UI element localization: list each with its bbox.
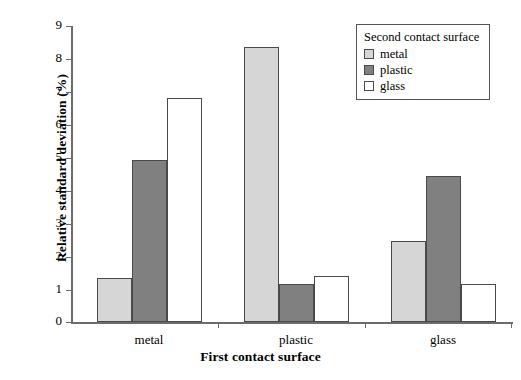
y-tick-5: 5 bbox=[66, 158, 71, 159]
y-tick-label-2: 2 bbox=[56, 248, 63, 264]
x-axis-title: First contact surface bbox=[0, 349, 521, 365]
y-axis-line bbox=[71, 26, 73, 323]
legend-label-metal: metal bbox=[380, 46, 408, 62]
y-tick-8: 8 bbox=[66, 59, 71, 60]
y-tick-1: 1 bbox=[66, 290, 71, 291]
y-tick-label-3: 3 bbox=[56, 215, 63, 231]
bar-metal-plastic bbox=[132, 160, 167, 322]
y-tick-9: 9 bbox=[66, 26, 71, 27]
legend-item-glass: glass bbox=[364, 78, 479, 94]
y-tick-label-1: 1 bbox=[56, 281, 63, 297]
bar-glass-glass bbox=[461, 284, 496, 322]
y-tick-4: 4 bbox=[66, 191, 71, 192]
x-category-label-plastic: plastic bbox=[279, 332, 313, 348]
y-tick-label-9: 9 bbox=[56, 17, 63, 33]
x-tick-separator-3 bbox=[511, 323, 512, 328]
y-tick-label-4: 4 bbox=[56, 182, 63, 198]
bar-metal-metal bbox=[97, 278, 132, 322]
legend-swatch-glass-icon bbox=[364, 81, 374, 91]
y-tick-0: 0 bbox=[66, 322, 71, 323]
y-tick-6: 6 bbox=[66, 125, 71, 126]
y-tick-2: 2 bbox=[66, 257, 71, 258]
x-category-label-metal: metal bbox=[135, 332, 164, 348]
y-tick-label-0: 0 bbox=[56, 313, 63, 329]
x-category-label-glass: glass bbox=[430, 332, 456, 348]
y-tick-label-6: 6 bbox=[56, 116, 63, 132]
y-tick-label-7: 7 bbox=[56, 83, 63, 99]
legend-swatch-metal-icon bbox=[364, 49, 374, 59]
x-tick-separator-1 bbox=[218, 323, 219, 328]
legend-title: Second contact surface bbox=[364, 29, 479, 45]
bar-plastic-glass bbox=[314, 276, 349, 322]
bar-glass-plastic bbox=[426, 176, 461, 322]
legend-item-plastic: plastic bbox=[364, 62, 479, 78]
bar-plastic-metal bbox=[244, 47, 279, 322]
y-tick-7: 7 bbox=[66, 92, 71, 93]
bar-metal-glass bbox=[167, 98, 202, 322]
legend: Second contact surface metal plastic gla… bbox=[356, 24, 490, 100]
y-tick-3: 3 bbox=[66, 224, 71, 225]
legend-item-metal: metal bbox=[364, 46, 479, 62]
x-tick-separator-2 bbox=[365, 323, 366, 328]
legend-swatch-plastic-icon bbox=[364, 65, 374, 75]
bar-glass-metal bbox=[391, 241, 426, 322]
x-axis-line bbox=[71, 322, 513, 324]
y-tick-label-8: 8 bbox=[56, 50, 63, 66]
bar-plastic-plastic bbox=[279, 284, 314, 322]
bar-chart-figure: Relative standard deviation (%) 9 8 7 6 … bbox=[0, 0, 521, 380]
y-tick-label-5: 5 bbox=[56, 149, 63, 165]
legend-label-plastic: plastic bbox=[380, 62, 413, 78]
legend-label-glass: glass bbox=[380, 78, 405, 94]
